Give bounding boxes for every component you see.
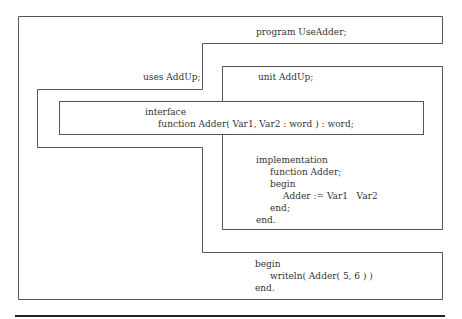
unit-outline <box>223 67 443 230</box>
unit-header: unit AddUp; <box>258 71 313 83</box>
implementation-end-unit: end. <box>256 214 276 226</box>
diagram-lines <box>0 0 462 319</box>
implementation-function: function Adder; <box>270 166 341 178</box>
main-writeln: writeln( Adder( 5, 6 ) ) <box>270 270 373 282</box>
main-begin: begin <box>255 258 281 270</box>
implementation-assignment: Adder := Var1 Var2 <box>283 190 378 202</box>
uses-clause: uses AddUp; <box>143 71 201 83</box>
interface-declaration: function Adder( Var1, Var2 : word ) : wo… <box>158 118 354 130</box>
main-end: end. <box>255 282 275 294</box>
interface-keyword: interface <box>145 106 186 118</box>
implementation-keyword: implementation <box>256 154 328 166</box>
program-outline <box>19 17 443 300</box>
program-header: program UseAdder; <box>256 26 347 38</box>
implementation-begin: begin <box>270 178 296 190</box>
implementation-end-function: end; <box>270 202 290 214</box>
